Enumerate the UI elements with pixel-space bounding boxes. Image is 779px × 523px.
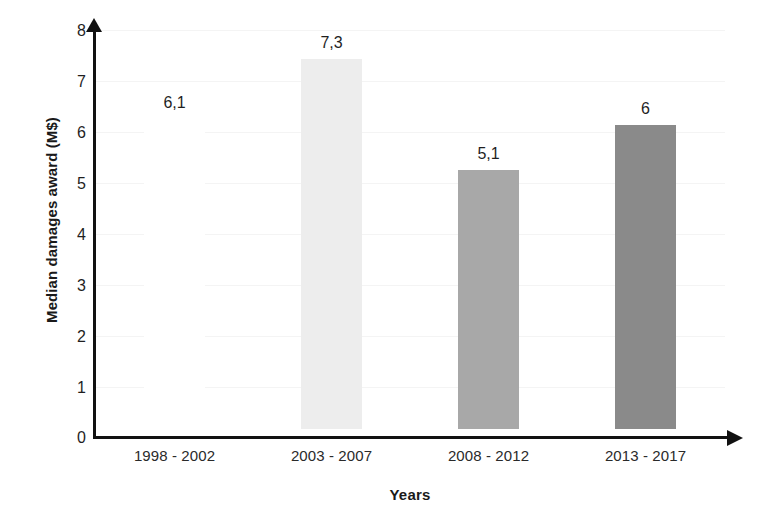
bar-value-label-1998-2002: 6,1: [96, 95, 253, 111]
bar-value-label-2013-2017: 6: [567, 101, 724, 117]
bar-value-label-2003-2007: 7,3: [253, 35, 410, 51]
y-tick-label-2: 2: [58, 329, 86, 345]
x-axis-title: Years: [95, 486, 725, 503]
x-category-label-1: 2003 - 2007: [253, 447, 410, 464]
y-tick-label-8: 8: [58, 23, 86, 39]
y-tick-label-1: 1: [58, 380, 86, 396]
x-category-label-3: 2013 - 2017: [567, 447, 724, 464]
y-tick-label-6: 6: [58, 125, 86, 141]
bar-2008-2012[interactable]: [458, 170, 519, 429]
x-category-label-0: 1998 - 2002: [96, 447, 253, 464]
y-axis-title: Median damages award (M$): [34, 5, 68, 435]
y-tick-label-5: 5: [58, 176, 86, 192]
bar-value-label-2008-2012: 5,1: [410, 146, 567, 162]
bar-group-0: 6,1: [96, 22, 253, 437]
y-tick-label-3: 3: [58, 278, 86, 294]
bar-2013-2017[interactable]: [615, 125, 676, 430]
bar-chart: Median damages award (M$) 8 7 6 5 4 3 2 …: [0, 0, 779, 523]
y-tick-label-4: 4: [58, 227, 86, 243]
x-axis-arrow-icon: [727, 430, 743, 446]
bar-group-3: 6: [567, 22, 724, 437]
x-category-label-2: 2008 - 2012: [410, 447, 567, 464]
y-tick-label-7: 7: [58, 74, 86, 90]
bar-2003-2007[interactable]: [301, 59, 362, 429]
plot-area: 6,1 7,3 5,1 6: [96, 22, 725, 437]
bar-group-1: 7,3: [253, 22, 410, 437]
y-tick-label-0: 0: [58, 430, 86, 446]
bar-1998-2002[interactable]: [144, 119, 205, 429]
bar-group-2: 5,1: [410, 22, 567, 437]
